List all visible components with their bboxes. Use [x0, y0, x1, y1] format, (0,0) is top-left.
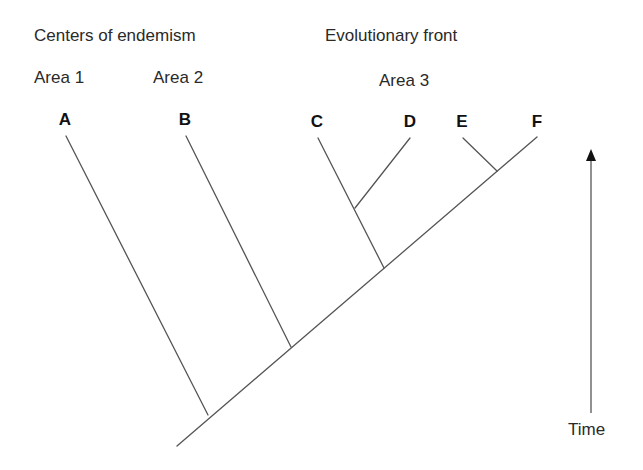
time-axis-arrow	[586, 149, 596, 413]
branch-a	[66, 136, 208, 415]
branch-d	[355, 138, 410, 208]
branch-e	[463, 138, 497, 171]
arrowhead-up-icon	[586, 149, 596, 161]
branch-c	[318, 138, 384, 268]
cladogram	[0, 0, 643, 470]
branch-b	[186, 136, 291, 347]
time-axis-label: Time	[568, 420, 605, 440]
main-stem-branch	[177, 137, 537, 446]
